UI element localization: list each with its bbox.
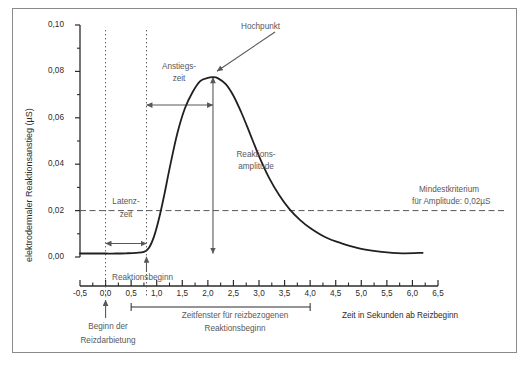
arrow-hochpunkt: [217, 32, 275, 71]
annotation-mindestkriterium-line2: für Amplitude: 0,02µS: [412, 197, 490, 207]
annotation-hochpunkt-label: Hochpunkt: [241, 22, 280, 32]
annotation-reaktionsbeginn-label: Reaktionsbeginn: [112, 273, 173, 283]
annotation-latenzzeit-line2: zeit: [104, 210, 148, 220]
y-tick-label: 0,02: [38, 206, 74, 215]
y-tick-label: 0,04: [38, 159, 74, 168]
y-tick-label: 0,10: [38, 20, 74, 29]
y-axis-ticks: [75, 25, 80, 257]
annotation-reaktionsamplitude-line1: Reaktions-: [226, 150, 286, 160]
annotation-anstiegszeit-line1: Anstiegs-: [152, 62, 206, 72]
y-axis-title: elektrodermaler Reaktionsanstieg (µS): [24, 108, 34, 262]
annotation-anstiegszeit-line2: zeit: [152, 74, 206, 84]
annotation-reaktionsamplitude-line2: amplitude: [226, 162, 286, 172]
y-tick-label: 0,00: [38, 252, 74, 261]
y-tick-label: 0,08: [38, 66, 74, 75]
x-tick-label: 6,5: [422, 289, 454, 298]
annotation-beginn-line1: Beginn der: [64, 322, 152, 332]
reference-lines: [80, 30, 505, 296]
y-tick-label: 0,06: [38, 113, 74, 122]
annotation-mindestkriterium-line1: Mindestkriterium: [419, 185, 479, 195]
annotation-beginn-line2: Reizdarbietung: [58, 336, 158, 346]
x-axis-title: Zeit in Sekunden ab Reizbeginn: [342, 311, 458, 321]
annotation-latenzzeit-line1: Latenz-: [104, 197, 148, 207]
annotation-zeitfenster-line1: Zeitfenster für reizbezogenen: [140, 311, 330, 321]
figure-root: elektrodermaler Reaktionsanstieg (µS) Ho…: [0, 0, 531, 371]
annotation-zeitfenster-line2: Reaktionsbeginn: [140, 324, 330, 334]
